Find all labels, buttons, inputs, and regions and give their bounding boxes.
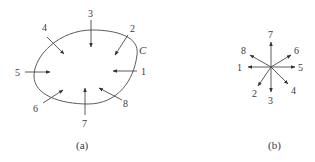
arrow-label-2: 2: [130, 23, 135, 34]
arrow-2-icon: [115, 35, 128, 55]
vector-label-1: 1: [237, 62, 242, 73]
vector-label-4: 4: [291, 85, 296, 96]
caption-b: (b): [268, 139, 281, 152]
vector-4-icon: [271, 67, 288, 84]
panel-b: 1 2 3 4 5 6 7 8 (b): [237, 29, 303, 152]
arrow-label-6: 6: [33, 103, 38, 114]
vector-2-icon: [258, 67, 271, 86]
vector-label-5: 5: [298, 62, 303, 73]
vector-label-6: 6: [294, 45, 299, 56]
arrow-4-icon: [47, 37, 64, 54]
arrow-label-4: 4: [42, 22, 47, 33]
arrow-label-7: 7: [82, 118, 87, 129]
vector-label-7: 7: [268, 29, 273, 40]
arrow-label-5: 5: [15, 67, 20, 78]
caption-a: (a): [76, 139, 89, 152]
arrow-label-1: 1: [141, 66, 146, 77]
figure: C 1 2 3 4 5 6 7 8 (a) 1 2 3 4: [0, 0, 315, 162]
vector-label-3: 3: [268, 95, 273, 106]
closed-curve-c: [34, 30, 137, 104]
arrow-label-8: 8: [123, 98, 128, 109]
vector-8-icon: [250, 55, 271, 67]
panel-a: C 1 2 3 4 5 6 7 8 (a): [15, 8, 147, 152]
vector-label-8: 8: [241, 45, 246, 56]
vector-label-2: 2: [252, 88, 257, 99]
arrow-label-3: 3: [88, 8, 93, 19]
vector-6-icon: [271, 55, 291, 67]
curve-label-c: C: [139, 44, 147, 56]
